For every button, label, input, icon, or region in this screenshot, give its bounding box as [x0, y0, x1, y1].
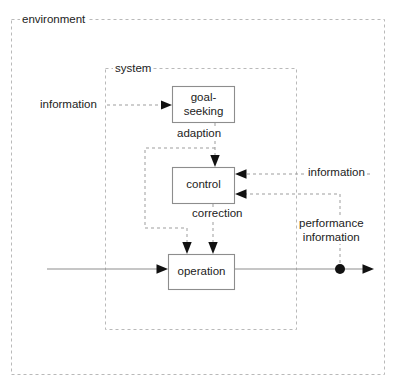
arrowhead-goal-seeking-to-control — [210, 155, 219, 167]
system-region-label: system — [113, 62, 153, 76]
arrowhead-operation-to-output — [363, 264, 375, 274]
arrowhead-adaption-loop-to-operation — [182, 242, 191, 254]
edge-label-performance-information: performance information — [297, 217, 366, 244]
environment-region-label: environment — [20, 13, 87, 27]
output-junction-dot — [335, 264, 345, 274]
edge-label-correction: correction — [190, 207, 245, 221]
arrowhead-information-to-goal-seeking — [161, 101, 172, 110]
node-goal-seeking-label-line1: goal- — [172, 91, 235, 105]
node-goal-seeking-label: goal- seeking — [172, 91, 235, 118]
arrowhead-information-right-to-control — [235, 169, 247, 179]
edge-label-information-right: information — [306, 166, 367, 180]
node-control-label: control — [172, 178, 235, 192]
edge-label-adaption: adaption — [175, 127, 223, 141]
arrowhead-performance-information-to-control — [235, 189, 247, 199]
node-goal-seeking-label-line2: seeking — [172, 105, 235, 119]
diagram-canvas: environment system goal- seeking control… — [0, 0, 394, 388]
arrowhead-control-to-operation — [208, 242, 217, 254]
arrowhead-input-to-operation — [157, 264, 169, 274]
diagram-svg — [0, 0, 394, 388]
edge-label-performance-information-line2: information — [299, 231, 364, 245]
node-operation-label: operation — [168, 265, 235, 279]
edge-label-information-input: information — [38, 98, 99, 112]
edge-label-performance-information-line1: performance — [299, 217, 364, 231]
